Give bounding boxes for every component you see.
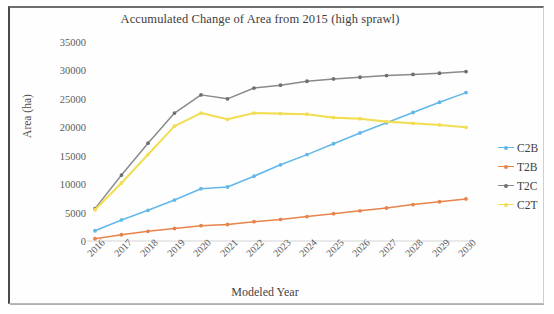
x-axis-title: Modeled Year <box>150 285 380 300</box>
x-tick-label: 2027 <box>377 237 399 259</box>
legend-marker-icon <box>504 146 508 150</box>
legend-item-c2t[interactable]: C2T <box>498 195 554 214</box>
x-tick-label: 2018 <box>138 237 160 259</box>
legend-color-swatch <box>498 181 514 191</box>
plot-area: 35000300002500020000150001000050000 Area… <box>0 0 554 314</box>
legend-color-swatch <box>498 143 514 153</box>
x-tick-label: 2030 <box>456 237 478 259</box>
x-tick-label: 2020 <box>191 237 213 259</box>
chart-screenshot: Accumulated Change of Area from 2015 (hi… <box>0 0 554 314</box>
legend-item-t2c[interactable]: T2C <box>498 176 554 195</box>
legend-item-c2b[interactable]: C2B <box>498 138 554 157</box>
legend-item-label: C2T <box>517 199 537 211</box>
x-tick-label: 2028 <box>403 237 425 259</box>
chart-legend: C2BT2BT2CC2T <box>498 138 554 214</box>
legend-item-label: C2B <box>517 142 538 154</box>
x-tick-label: 2016 <box>85 237 107 259</box>
x-tick-label: 2019 <box>165 237 187 259</box>
x-tick-label: 2026 <box>350 237 372 259</box>
x-tick-label: 2017 <box>112 237 134 259</box>
x-tick-label: 2024 <box>297 237 319 259</box>
legend-marker-icon <box>504 184 508 188</box>
legend-item-t2b[interactable]: T2B <box>498 157 554 176</box>
legend-marker-icon <box>504 203 508 207</box>
x-tick-label: 2021 <box>218 237 240 259</box>
legend-color-swatch <box>498 162 514 172</box>
legend-color-swatch <box>498 200 514 210</box>
legend-item-label: T2C <box>517 180 537 192</box>
legend-item-label: T2B <box>517 161 537 173</box>
x-axis-tick-labels: 2016201720182019202020212022202320242025… <box>0 0 554 314</box>
x-tick-label: 2023 <box>271 237 293 259</box>
x-tick-label: 2025 <box>324 237 346 259</box>
x-tick-label: 2022 <box>244 237 266 259</box>
x-tick-label: 2029 <box>430 237 452 259</box>
legend-marker-icon <box>504 165 508 169</box>
